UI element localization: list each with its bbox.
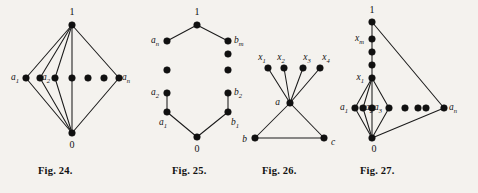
fig25-vertex-a1	[164, 109, 171, 116]
fig27-vertex-a1	[352, 105, 359, 112]
fig26-label-a: a	[275, 97, 280, 107]
fig27-label-a1: a1	[340, 102, 348, 113]
fig25-vertex-bm	[225, 38, 232, 45]
fig25-label-b2: b2	[234, 87, 243, 98]
fig25-label-a2: a2	[151, 87, 160, 98]
fig24-edge-top-a1	[26, 25, 72, 78]
fig27-label-xm: xm	[354, 33, 364, 44]
fig25-label-a1: a1	[159, 117, 167, 128]
fig25-vertex-b2	[225, 90, 232, 97]
fig26-vertex-x1	[265, 65, 272, 72]
fig-27-caption: Fig. 27.	[360, 165, 395, 176]
fig26-edge-a-x3	[290, 68, 303, 103]
fig26-edge-a-x4	[290, 68, 320, 103]
fig24-edge-top-an	[72, 25, 119, 78]
fig26-label-x3: x3	[302, 52, 311, 63]
fig27-label-an: an	[449, 102, 458, 113]
fig27-vertex-a6	[415, 105, 422, 112]
fig-25-group: 1 0 an a2 a1 bm b2 b1	[151, 6, 244, 154]
fig24-edge-bot-a1	[26, 78, 72, 133]
fig25-edge-bot-b1	[197, 112, 228, 137]
fig-24-group: 1 0 a1 a2 an	[11, 6, 131, 150]
fig25-label-b1: b1	[231, 117, 239, 128]
fig24-edge-bot-an	[72, 78, 119, 133]
fig25-vertex-an	[164, 38, 171, 45]
fig26-vertex-x3	[300, 65, 307, 72]
fig25-vertex-top	[194, 22, 201, 29]
fig25-vertex-a2	[164, 90, 171, 97]
fig24-label-top: 1	[70, 6, 75, 17]
fig24-vertex-bottom	[69, 130, 76, 137]
fig24-vertex-top	[69, 22, 76, 29]
fig25-label-bm: bm	[234, 35, 244, 46]
fig24-label-an: an	[122, 72, 131, 83]
fig26-label-c: c	[331, 137, 336, 147]
fig26-vertex-x2	[281, 65, 288, 72]
fig26-vertex-c	[321, 135, 328, 142]
fig27-label-bottom: 0	[372, 143, 377, 154]
fig26-label-x2: x2	[276, 52, 285, 63]
fig-26-caption: Fig. 26.	[262, 165, 297, 176]
fig27-label-x1: x1	[355, 72, 364, 83]
fig25-edge-bot-a1	[167, 112, 197, 137]
fig24-label-a2: a2	[42, 72, 51, 83]
fig25-edge-top-an	[167, 25, 197, 41]
fig25-label-top: 1	[195, 6, 200, 17]
fig25-edge-top-bm	[197, 25, 228, 41]
fig26-label-b: b	[242, 134, 247, 144]
fig-24-caption: Fig. 24.	[38, 165, 73, 176]
fig27-edge-an-bottom	[372, 108, 444, 138]
fig27-vertex-a4	[386, 105, 393, 112]
fig24-label-bottom: 0	[70, 139, 75, 150]
fig27-vertex-x-mid1	[369, 49, 376, 56]
fig24-vertex-a1	[23, 75, 30, 82]
fig25-vertex-bottom	[194, 134, 201, 141]
fig24-edge-top-a3	[55, 25, 72, 78]
fig24-vertex-a6	[101, 75, 108, 82]
fig25-label-bottom: 0	[195, 143, 200, 154]
fig25-vertex-b1	[225, 109, 232, 116]
fig26-vertex-a	[287, 100, 294, 107]
fig27-label-a3: a3	[374, 102, 383, 113]
figure-plate: 1 0 a1 a2 an	[0, 0, 478, 193]
fig24-label-a1: a1	[11, 72, 19, 83]
fig26-vertex-x4	[317, 65, 324, 72]
fig-27-group: 1 0 xm x1 a1 a2 a3 an	[340, 4, 458, 154]
fig25-label-an: an	[151, 35, 160, 46]
fig27-vertex-x-mid2	[369, 62, 376, 69]
fig27-vertex-top	[369, 19, 376, 26]
fig24-vertex-a5	[85, 75, 92, 82]
fig27-edge-top-an	[372, 22, 444, 108]
fig27-vertex-a7	[423, 105, 430, 112]
fig27-vertex-x1	[369, 75, 376, 82]
fig24-edge-bot-a2	[40, 78, 72, 133]
fig24-edge-bot-a3	[55, 78, 72, 133]
fig27-vertex-a5	[402, 105, 409, 112]
fig26-edge-a-b	[255, 103, 290, 138]
fig27-vertex-an	[441, 105, 448, 112]
fig25-vertex-b-mid	[225, 67, 232, 74]
fig-26-group: x1 x2 x3 x4 a b c	[242, 52, 336, 147]
fig27-vertex-xm	[369, 36, 376, 43]
fig26-label-x1: x1	[257, 52, 266, 63]
fig26-vertex-b	[252, 135, 259, 142]
fig24-vertex-a3	[52, 75, 59, 82]
fig24-edge-top-a2	[40, 25, 72, 78]
fig27-label-top: 1	[370, 4, 375, 15]
fig-25-caption: Fig. 25.	[172, 165, 207, 176]
fig25-vertex-a-mid	[164, 67, 171, 74]
fig25-vertex-b-upper	[225, 51, 232, 58]
fig27-vertex-bottom	[369, 135, 376, 142]
fig26-label-x4: x4	[321, 52, 330, 63]
fig26-edge-a-c	[290, 103, 324, 138]
fig24-vertex-a4	[69, 75, 76, 82]
